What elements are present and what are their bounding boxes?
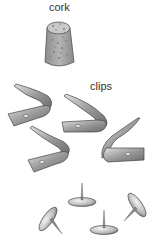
thumbtack-icon — [90, 210, 118, 235]
thumbtack-icon — [36, 205, 62, 234]
clip-icon — [8, 84, 52, 126]
thumbtack-icon — [68, 183, 96, 207]
clip-icon — [28, 126, 69, 172]
clip-icon — [102, 118, 144, 162]
clip-icon — [62, 94, 107, 132]
thumbtack-icon — [124, 191, 149, 221]
cork-icon — [45, 22, 74, 66]
illustration — [0, 0, 161, 245]
